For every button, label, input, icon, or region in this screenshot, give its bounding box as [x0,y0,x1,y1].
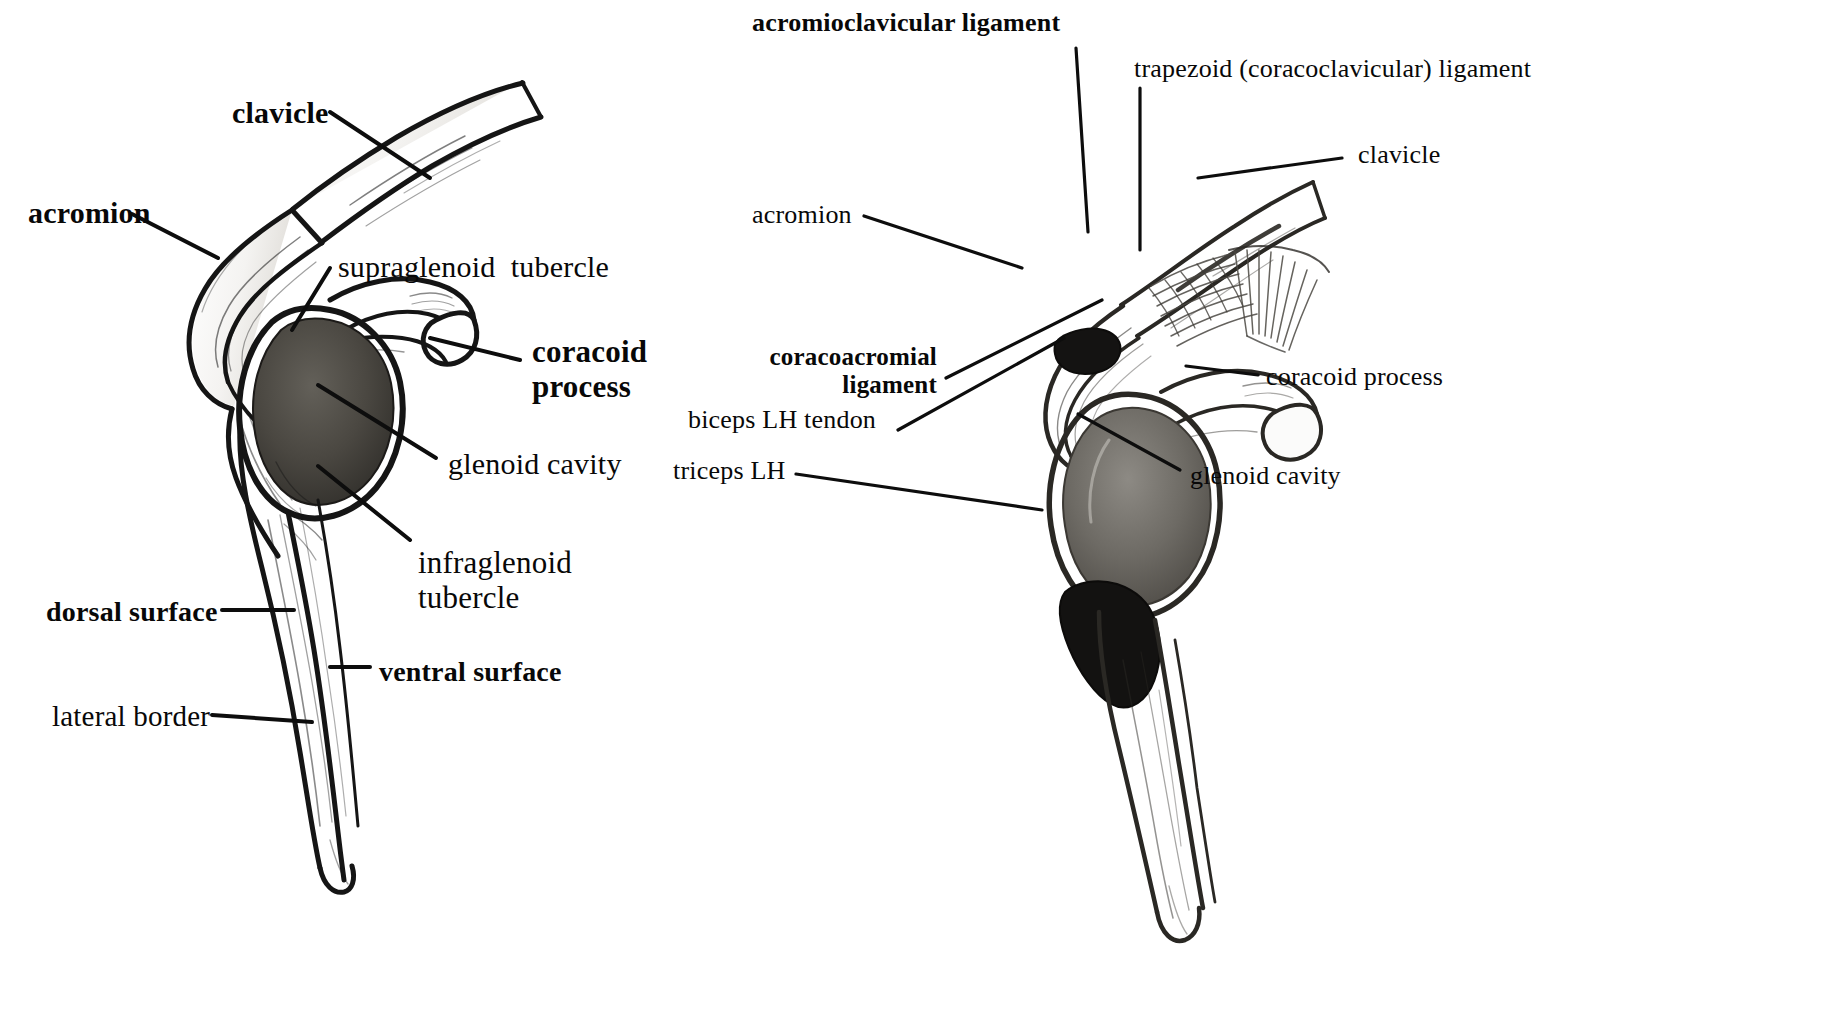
diagram-page: clavicle acromion supraglenoid tubercle … [0,0,1826,1022]
figure-scapula-bone: clavicle acromion supraglenoid tubercle … [0,0,913,1022]
label-dorsal-surface: dorsal surface [46,596,218,627]
label-trapezoid-ligament: trapezoid (coracoclavicular) ligament [1134,54,1531,83]
leader-supraglenoid-tubercle [292,268,330,330]
label-clavicle-right: clavicle [1358,140,1440,169]
label-lateral-border: lateral border [52,700,210,732]
label-acromioclavicular-ligament: acromioclavicular ligament [752,8,1060,37]
leader-lateral-border [212,715,312,722]
leader-coracoid-process [430,338,520,360]
label-clavicle: clavicle [232,96,329,130]
label-supraglenoid-tubercle: supraglenoid tubercle [338,250,609,284]
leader-clavicle [330,112,430,178]
label-acromion-right: acromion [752,200,852,229]
label-coracoacromial-ligament: coracoacromial ligament [555,343,937,399]
label-glenoid-cavity: glenoid cavity [448,447,622,481]
scapula-bone-drawing [0,0,913,1022]
label-biceps-lh-tendon: biceps LH tendon [688,405,876,434]
label-ventral-surface: ventral surface [379,656,562,687]
label-triceps-lh: triceps LH [673,456,785,485]
leader-infraglenoid-tubercle [318,466,410,540]
label-coracoid-process-right: coracoid process [1266,362,1443,391]
label-glenoid-cavity-right: glenoid cavity [1190,461,1341,490]
leader-glenoid-cavity [318,385,436,458]
leader-lines-left [0,0,913,1022]
label-acromion: acromion [28,196,151,230]
label-infraglenoid-tubercle: infraglenoid tubercle [418,546,572,615]
